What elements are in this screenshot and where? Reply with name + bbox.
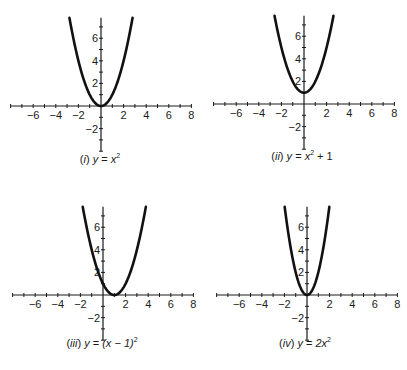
x-tick-label: 6 xyxy=(166,109,172,121)
y-tick-label: 4 xyxy=(94,244,100,256)
graph-panel-i: −6−4−22468642−2 xyxy=(11,18,195,151)
y-tick-label: 4 xyxy=(92,55,98,67)
x-tick-label: 4 xyxy=(349,298,355,310)
x-tick-label: 2 xyxy=(327,298,333,310)
x-tick-label: 2 xyxy=(121,109,127,121)
x-tick-label: −2 xyxy=(278,298,291,310)
y-tick-label: 6 xyxy=(92,32,98,44)
graph-caption-i: (i) y = x2 xyxy=(80,152,120,165)
x-tick-label: 2 xyxy=(123,298,129,310)
x-tick-label: −6 xyxy=(29,298,42,310)
y-tick-label: −2 xyxy=(85,123,98,135)
x-tick-label: −4 xyxy=(256,298,269,310)
x-tick-label: −2 xyxy=(275,107,288,119)
x-tick-label: −6 xyxy=(27,109,40,121)
graph-caption-iv: (iv) y = 2x2 xyxy=(279,336,331,349)
figure-canvas: −6−4−22468642−2−6−4−22468642−2−6−4−22468… xyxy=(0,0,407,370)
graph-caption-iii: (iii) y = (x − 1)2 xyxy=(66,336,137,349)
y-tick-label: 2 xyxy=(298,266,304,278)
graph-panel-iv: −6−4−22468642−2 xyxy=(217,207,401,340)
x-tick-label: 2 xyxy=(324,107,330,119)
x-tick-label: 6 xyxy=(372,298,378,310)
x-tick-label: 4 xyxy=(145,298,151,310)
x-tick-label: −2 xyxy=(74,298,87,310)
y-tick-label: 4 xyxy=(298,244,304,256)
graph-panel-iii: −6−4−22468642−2 xyxy=(13,207,197,340)
x-tick-label: 8 xyxy=(188,109,194,121)
x-tick-label: 4 xyxy=(143,109,149,121)
parabola-curve xyxy=(83,207,146,295)
x-tick-label: 8 xyxy=(391,107,397,119)
x-tick-label: −4 xyxy=(50,109,63,121)
y-tick-label: −2 xyxy=(291,312,304,324)
x-tick-label: −6 xyxy=(233,298,246,310)
y-tick-label: −2 xyxy=(288,121,301,133)
y-tick-label: −2 xyxy=(87,312,100,324)
x-tick-label: −4 xyxy=(253,107,266,119)
x-tick-label: 6 xyxy=(369,107,375,119)
x-tick-label: 8 xyxy=(394,298,400,310)
graph-caption-ii: (ii) y = x2 + 1 xyxy=(271,149,332,162)
graph-panel-ii: −6−4−22468642−2 xyxy=(214,16,398,149)
y-tick-label: 6 xyxy=(298,221,304,233)
y-tick-label: 2 xyxy=(92,77,98,89)
x-tick-label: 6 xyxy=(168,298,174,310)
x-tick-label: −6 xyxy=(230,107,243,119)
y-tick-label: 4 xyxy=(295,53,301,65)
x-tick-label: 4 xyxy=(346,107,352,119)
y-tick-label: 6 xyxy=(295,30,301,42)
x-tick-label: 8 xyxy=(190,298,196,310)
x-tick-label: −2 xyxy=(72,109,85,121)
y-tick-label: 6 xyxy=(94,221,100,233)
x-tick-label: −4 xyxy=(52,298,65,310)
